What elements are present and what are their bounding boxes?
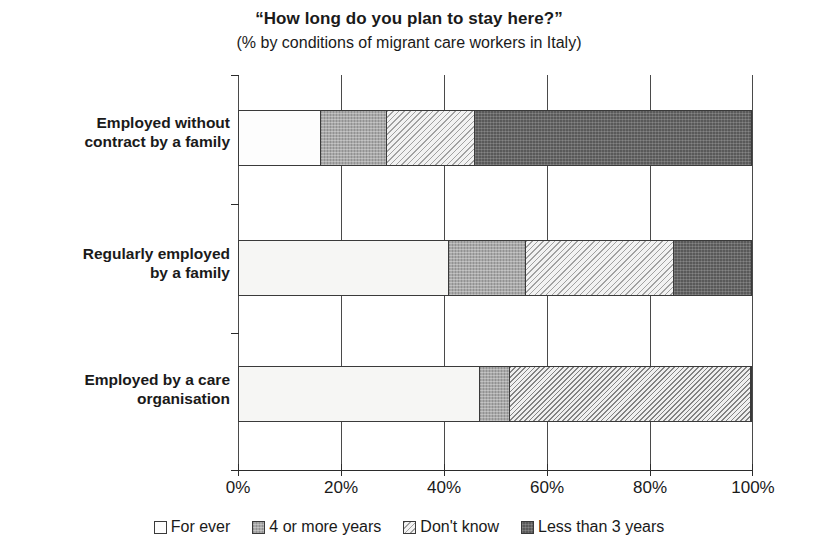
- legend-swatch-for-ever: [154, 521, 167, 534]
- legend-item-less-than-3-years[interactable]: Less than 3 years: [521, 518, 664, 536]
- category-label-line2: organisation: [18, 389, 230, 408]
- x-tick-60: [547, 464, 548, 476]
- category-label-line1: Employed by a care: [18, 370, 230, 389]
- bar-row-employed-without-contract: [238, 110, 752, 166]
- y-tick-2: [231, 333, 239, 334]
- category-label-employed-without-contract: Employed without contract by a family: [18, 113, 230, 151]
- segment-less-than-3-years: [674, 241, 751, 295]
- legend-item-4-or-more-years[interactable]: 4 or more years: [252, 518, 381, 536]
- x-tick-40: [444, 464, 445, 476]
- segment-for-ever: [239, 241, 449, 295]
- bar-row-regularly-employed: [238, 240, 752, 296]
- bar-row-care-organisation: [238, 366, 752, 422]
- segment-for-ever: [239, 367, 480, 421]
- segment-4-or-more-years: [480, 367, 511, 421]
- x-axis-line: [238, 470, 753, 471]
- category-label-regularly-employed: Regularly employed by a family: [18, 244, 230, 282]
- legend-swatch-dont-know: [403, 521, 416, 534]
- segment-for-ever: [239, 111, 321, 165]
- chart-legend: For ever 4 or more years Don't know Less…: [0, 518, 818, 536]
- gridline-100: [752, 75, 753, 471]
- x-tick-label-20: 20%: [306, 478, 376, 498]
- y-tick-1: [231, 204, 239, 205]
- legend-label-less-than-3-years: Less than 3 years: [538, 518, 664, 536]
- x-tick-label-60: 60%: [512, 478, 582, 498]
- chart-title: “How long do you plan to stay here?”: [0, 8, 818, 30]
- y-tick-bottom: [231, 470, 239, 471]
- x-tick-label-40: 40%: [409, 478, 479, 498]
- chart-title-block: “How long do you plan to stay here?” (% …: [0, 8, 818, 54]
- y-tick-top: [231, 75, 239, 76]
- segment-4-or-more-years: [449, 241, 526, 295]
- x-tick-label-80: 80%: [615, 478, 685, 498]
- category-label-care-organisation: Employed by a care organisation: [18, 370, 230, 408]
- category-label-line1: Regularly employed: [18, 244, 230, 263]
- segment-dont-know: [387, 111, 474, 165]
- legend-swatch-4-or-more-years: [252, 521, 265, 534]
- legend-swatch-less-than-3-years: [521, 521, 534, 534]
- segment-less-than-3-years: [475, 111, 751, 165]
- legend-item-dont-know[interactable]: Don't know: [403, 518, 499, 536]
- category-label-line1: Employed without: [18, 113, 230, 132]
- legend-label-dont-know: Don't know: [420, 518, 499, 536]
- x-tick-label-100: 100%: [718, 478, 788, 498]
- x-tick-label-0: 0%: [203, 478, 273, 498]
- chart-subtitle: (% by conditions of migrant care workers…: [0, 32, 818, 54]
- legend-label-4-or-more-years: 4 or more years: [269, 518, 381, 536]
- category-label-line2: by a family: [18, 263, 230, 282]
- segment-dont-know: [510, 367, 751, 421]
- segment-4-or-more-years: [321, 111, 388, 165]
- x-tick-100: [752, 464, 753, 476]
- legend-label-for-ever: For ever: [171, 518, 231, 536]
- legend-item-for-ever[interactable]: For ever: [154, 518, 231, 536]
- x-tick-80: [650, 464, 651, 476]
- category-label-line2: contract by a family: [18, 132, 230, 151]
- x-tick-20: [341, 464, 342, 476]
- stacked-bar-chart: “How long do you plan to stay here?” (% …: [0, 0, 818, 556]
- segment-dont-know: [526, 241, 674, 295]
